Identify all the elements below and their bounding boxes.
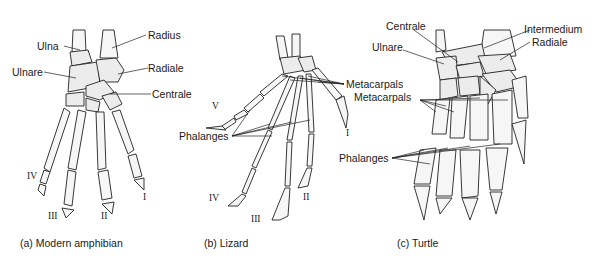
- caption-turtle: (c) Turtle: [397, 237, 438, 249]
- digit-label-ii-lizard: II: [303, 192, 309, 202]
- lizard-hand-drawing: [206, 34, 348, 220]
- digit-label-iv: IV: [27, 171, 37, 181]
- digit-label-iv-lizard: IV: [209, 193, 219, 203]
- label-radiale-turtle: Radiale: [532, 36, 568, 48]
- forelimb-diagram-artwork: [0, 0, 596, 261]
- label-phalanges-lizard: Phalanges: [179, 130, 229, 142]
- label-metacarpals-lizard: Metacarpals: [346, 78, 403, 90]
- label-centrale: Centrale: [152, 88, 192, 100]
- label-intermedium: Intermedium: [524, 23, 582, 35]
- label-ulna: Ulna: [37, 40, 59, 52]
- label-ulnare-turtle: Ulnare: [372, 41, 403, 53]
- turtle-hand-drawing: [392, 30, 530, 220]
- label-metacarpals-turtle: Metacarpals: [354, 91, 411, 103]
- label-radius: Radius: [148, 29, 181, 41]
- amphibian-hand-drawing: [38, 30, 151, 218]
- label-ulnare: Ulnare: [12, 66, 43, 78]
- digit-label-ii: II: [101, 211, 107, 221]
- label-centrale-turtle: Centrale: [386, 20, 426, 32]
- digit-label-v: V: [212, 101, 219, 111]
- digit-label-iii: III: [48, 211, 58, 221]
- digit-label-iii-lizard: III: [251, 214, 261, 224]
- label-radiale: Radiale: [148, 62, 184, 74]
- digit-label-i-lizard: I: [346, 128, 349, 138]
- digit-label-i: I: [143, 192, 146, 202]
- caption-amphibian: (a) Modern amphibian: [20, 237, 123, 249]
- label-phalanges-turtle: Phalanges: [339, 152, 389, 164]
- caption-lizard: (b) Lizard: [204, 237, 248, 249]
